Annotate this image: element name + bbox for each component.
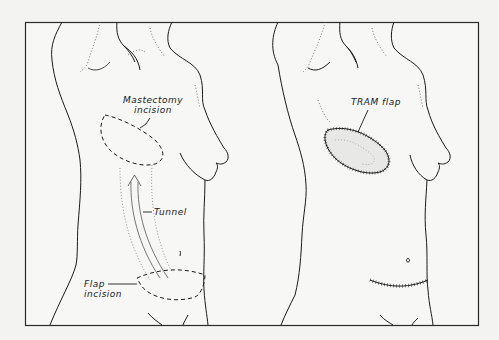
illustration-svg	[0, 0, 499, 340]
tram-flap-illustration: Mastectomy incision Tunnel Flap incision…	[0, 0, 499, 340]
mastectomy-label: Mastectomy incision	[118, 95, 188, 115]
flap-label-line2: incision	[84, 289, 122, 299]
tunnel-label: Tunnel	[154, 207, 187, 217]
tram-flap-label: TRAM flap	[351, 97, 401, 107]
mastectomy-label-line2: incision	[118, 105, 188, 115]
tunnel-label-text: Tunnel	[154, 207, 187, 217]
mastectomy-label-line1: Mastectomy	[118, 95, 188, 105]
flap-incision-label: Flap incision	[84, 279, 122, 299]
tram-flap-label-text: TRAM flap	[351, 97, 401, 107]
flap-label-line1: Flap	[84, 279, 122, 289]
